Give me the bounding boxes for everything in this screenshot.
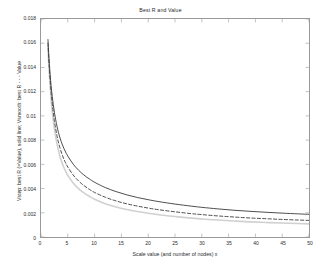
x-tick-label: 20 (145, 240, 151, 246)
y-axis-label: Vstep: best R (=Value), solid line; Vsmo… (16, 16, 22, 246)
x-tick-label: 0 (39, 240, 42, 246)
series-line (48, 47, 309, 224)
x-tick-label: 15 (118, 240, 124, 246)
x-tick-label: 40 (253, 240, 259, 246)
x-tick-label: 30 (199, 240, 205, 246)
figure-canvas: Best R and Value 00.0020.0040.0060.0080.… (0, 0, 321, 269)
x-tick-label: 5 (66, 240, 69, 246)
x-tick-label: 50 (307, 240, 313, 246)
chart-svg (41, 19, 309, 237)
plot-area (40, 18, 310, 238)
series-group (48, 40, 309, 224)
x-axis-label: Scale value (and number of nodes) x (40, 251, 310, 257)
x-tick-label: 25 (172, 240, 178, 246)
x-tick-label: 10 (91, 240, 97, 246)
x-tick-label: 45 (280, 240, 286, 246)
series-line (48, 43, 309, 220)
x-tick-label: 35 (226, 240, 232, 246)
series-line (48, 40, 309, 215)
chart-title: Best R and Value (0, 7, 321, 13)
